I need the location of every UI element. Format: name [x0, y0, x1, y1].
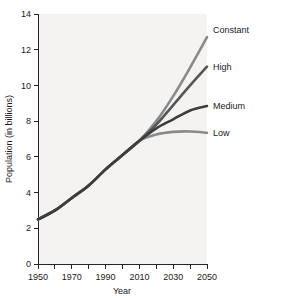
y-axis-title: Population (in billions) — [4, 95, 14, 183]
series-label-constant: Constant — [213, 25, 250, 35]
y-tick-label: 6 — [26, 152, 31, 162]
population-projection-chart: 02468101214 Population (in billions) 195… — [0, 0, 289, 299]
y-tick-label: 2 — [26, 223, 31, 233]
x-tick-label: 2030 — [163, 272, 183, 282]
series-labels-group: ConstantHighMediumLow — [213, 25, 250, 138]
plot-area-background — [38, 14, 207, 264]
y-axis-ticks — [34, 14, 38, 264]
y-axis-tick-labels: 02468101214 — [21, 9, 31, 269]
y-tick-label: 12 — [21, 45, 31, 55]
y-tick-label: 0 — [26, 259, 31, 269]
y-tick-label: 4 — [26, 188, 31, 198]
y-tick-label: 8 — [26, 116, 31, 126]
series-label-low: Low — [213, 128, 230, 138]
y-tick-label: 14 — [21, 9, 31, 19]
chart-canvas: 02468101214 Population (in billions) 195… — [0, 0, 289, 299]
y-axis: 02468101214 Population (in billions) — [4, 9, 38, 269]
x-axis-tick-labels: 195019701990201020302050 — [28, 272, 217, 282]
x-tick-label: 2010 — [129, 272, 149, 282]
x-tick-label: 2050 — [197, 272, 217, 282]
x-tick-label: 1990 — [96, 272, 116, 282]
x-axis-ticks — [38, 264, 207, 269]
series-label-high: High — [213, 62, 232, 72]
x-tick-label: 1950 — [28, 272, 48, 282]
series-label-medium: Medium — [213, 101, 245, 111]
x-tick-label: 1970 — [62, 272, 82, 282]
x-axis: 195019701990201020302050 Year — [28, 264, 217, 296]
x-axis-title: Year — [113, 286, 131, 296]
y-tick-label: 10 — [21, 81, 31, 91]
